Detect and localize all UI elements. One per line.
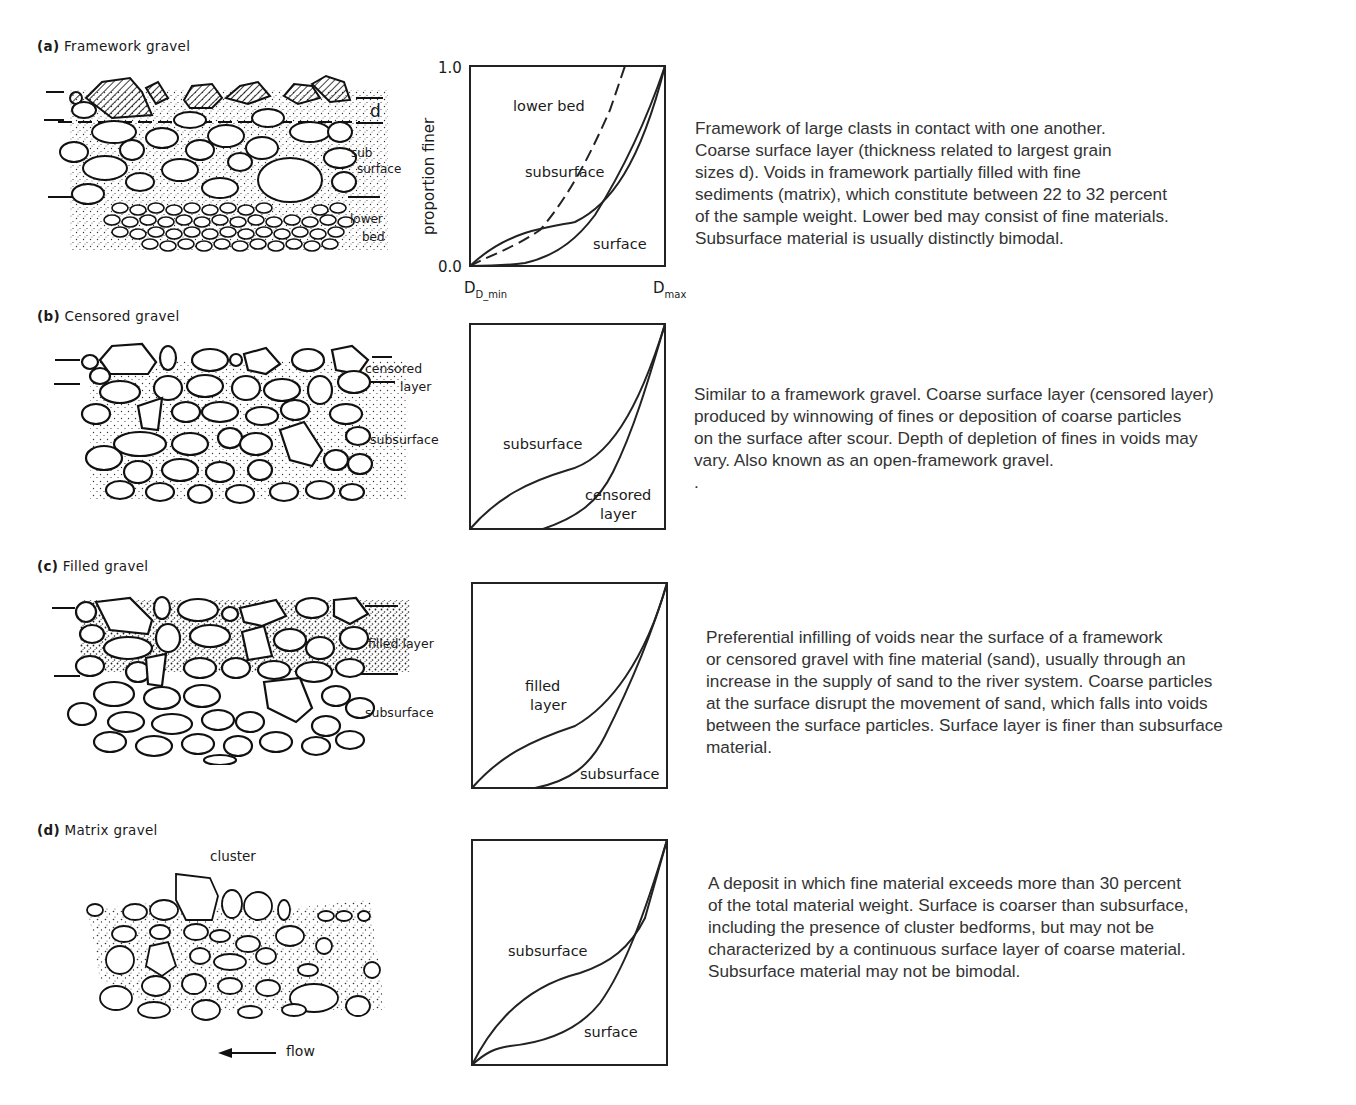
panel-description: Framework of large clasts in contact wit…	[695, 117, 1315, 249]
panel-description: A deposit in which fine material exceeds…	[708, 872, 1338, 982]
grain-size-chart-c: filled layer subsurface	[470, 581, 670, 791]
panel-matrix-gravel: (d) Matrix gravel cluster	[0, 805, 1356, 1105]
panel-title: (d) Matrix gravel	[37, 822, 158, 838]
panel-tag: (d)	[37, 822, 60, 838]
panel-title: (c) Filled gravel	[37, 558, 148, 574]
panel-filled-gravel: (c) Filled gravel	[0, 550, 1356, 805]
arrow-left-icon	[218, 1046, 278, 1060]
label-subsurface: subsurface	[370, 432, 439, 447]
panel-title: (b) Censored gravel	[37, 308, 179, 324]
x-tick-dmin: DD_min	[464, 279, 507, 301]
panel-title-text: Censored gravel	[65, 308, 180, 324]
label-bed: bed	[362, 230, 385, 244]
panel-censored-gravel: (b) Censored gravel	[0, 300, 1356, 550]
curve-label-subsurface: subsurface	[508, 943, 588, 959]
curve-label-subsurface: subsurface	[580, 766, 660, 782]
label-flow: flow	[286, 1043, 315, 1059]
grain-size-chart-a: 1.0 0.0 proportion finer lower bed subsu…	[410, 55, 710, 305]
y-tick-min: 0.0	[438, 258, 462, 276]
y-tick-max: 1.0	[438, 59, 462, 77]
panel-tag: (a)	[37, 38, 59, 54]
panel-title-text: Matrix gravel	[65, 822, 158, 838]
grain-size-chart-b: subsurface censored layer	[468, 322, 668, 532]
curve-label-filled: filled	[525, 678, 560, 694]
panel-framework-gravel: (a) Framework gravel	[0, 0, 1356, 300]
grain-size-chart-d: subsurface surface	[470, 838, 670, 1068]
framework-gravel-sketch: d sub surface lower bed	[40, 70, 420, 255]
label-d: d	[370, 101, 381, 121]
curve-label-subsurface: subsurface	[503, 436, 583, 452]
label-subsurface: subsurface	[365, 705, 434, 720]
x-tick-dmax: Dmax	[653, 279, 686, 300]
curve-label-subsurface: subsurface	[525, 164, 605, 180]
panel-tag: (c)	[37, 558, 58, 574]
matrix-gravel-sketch	[80, 870, 400, 1025]
label-sub: sub	[351, 146, 372, 160]
censored-gravel-sketch: censored layer subsurface	[50, 340, 450, 510]
curve-label-layer: layer	[530, 697, 566, 713]
curve-label-censored: censored	[585, 487, 651, 503]
panel-title-text: Framework gravel	[64, 38, 190, 54]
label-cluster: cluster	[210, 848, 256, 864]
panel-description: Similar to a framework gravel. Coarse su…	[694, 383, 1344, 493]
label-lower: lower	[350, 212, 383, 226]
label-surface: surface	[357, 162, 401, 176]
panel-tag: (b)	[37, 308, 60, 324]
label-layer: layer	[400, 379, 432, 394]
curve-filled-layer	[472, 583, 667, 788]
panel-title-text: Filled gravel	[63, 558, 149, 574]
curve-label-lower-bed: lower bed	[513, 98, 585, 114]
curve-label-surface: surface	[593, 236, 647, 252]
panel-title: (a) Framework gravel	[37, 38, 190, 54]
label-censored: censored	[365, 361, 422, 376]
curve-label-layer: layer	[600, 506, 636, 522]
y-axis-label: proportion finer	[420, 117, 438, 235]
panel-description: Preferential infilling of voids near the…	[706, 626, 1346, 758]
filled-gravel-sketch: filled layer subsurface	[50, 590, 450, 765]
label-filled-layer: filled layer	[368, 636, 435, 651]
curve-label-surface: surface	[584, 1024, 638, 1040]
